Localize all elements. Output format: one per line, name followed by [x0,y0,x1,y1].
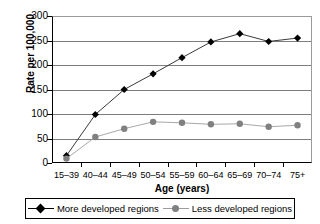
y-axis-tick-mark [47,163,52,164]
y-axis-tick-mark [47,41,52,42]
y-axis-tick-label: 0 [8,158,48,168]
x-axis-tick-mark [81,163,82,167]
legend-item-less-developed: Less developed regions [163,203,292,214]
legend-label-more-developed: More developed regions [57,203,159,214]
x-axis-tick-mark [196,163,197,167]
x-axis-tick-mark [225,163,226,167]
plot-area [52,16,312,163]
gridline [53,114,311,115]
y-axis-tick-mark [47,114,52,115]
gridline [53,139,311,140]
y-axis-tick-label: 50 [8,134,48,144]
x-axis-tick-label: 75+ [268,170,320,180]
y-axis-tick-mark [47,65,52,66]
y-axis-tick-label: 150 [8,85,48,95]
x-axis-title: Age (years) [52,183,312,194]
legend-item-more-developed: More developed regions [28,203,159,214]
diamond-marker-icon [28,204,54,214]
chart-figure: Rate per 100,000 050100150200250300 15–3… [0,0,320,224]
legend-label-less-developed: Less developed regions [192,203,292,214]
y-axis-tick-mark [47,139,52,140]
y-axis-tick-mark [47,16,52,17]
gridline [53,65,311,66]
x-axis-tick-mark [139,163,140,167]
circle-marker-icon [163,204,189,214]
y-axis-tick-label: 250 [8,36,48,46]
x-axis-tick-mark [110,163,111,167]
y-axis-tick-mark [47,90,52,91]
gridline [53,41,311,42]
gridline [53,90,311,91]
y-axis-tick-label: 200 [8,60,48,70]
y-axis-tick-label: 100 [8,109,48,119]
x-axis-tick-mark [283,163,284,167]
y-axis-tick-label: 300 [8,11,48,21]
x-axis-tick-mark [254,163,255,167]
chart-legend: More developed regions Less developed re… [25,198,295,219]
x-axis-tick-mark [168,163,169,167]
